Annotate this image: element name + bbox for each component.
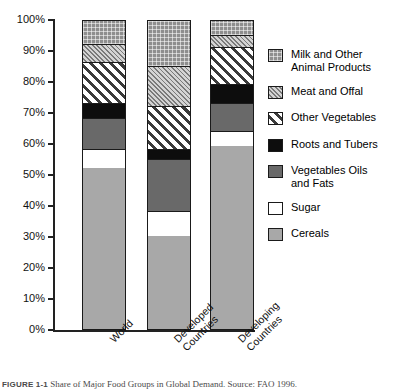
bar-segment [211,131,253,147]
legend-label: Milk and Other Animal Products [291,48,371,73]
figure-number: FIGURE 1-1 [2,380,48,389]
y-tick-label: 70% [23,107,45,118]
legend-label: Other Vegetables [291,111,376,124]
legend-item: Sugar [268,201,402,216]
bar-segment [148,66,190,106]
y-tick-label: 100% [17,14,45,25]
legend-swatch [268,228,283,241]
bar-segment [148,149,190,158]
legend-swatch [268,165,283,178]
y-tick-label: 90% [23,45,45,56]
bar-segment [83,168,125,329]
y-tick-label: 20% [23,262,45,273]
legend-item: Meat and Offal [268,85,402,100]
legend-item: Other Vegetables [268,111,402,126]
bar-segment [211,103,253,131]
bar-segment [83,149,125,168]
bar-segment [148,106,190,149]
x-axis-line [53,330,255,332]
bar-segment [211,84,253,103]
legend-swatch [268,112,283,125]
legend-label: Cereals [291,227,329,240]
chart-legend: Milk and Other Animal ProductsMeat and O… [268,48,402,254]
bar-segment [83,103,125,119]
bar-segment [148,211,190,236]
bar-segment [83,20,125,44]
caption-text: Share of Major Food Groups in Global Dem… [50,379,297,389]
y-tick-label: 40% [23,200,45,211]
legend-swatch [268,86,283,99]
legend-swatch [268,49,283,62]
bar-segment [83,118,125,149]
stacked-bar [147,20,191,330]
y-tick-label: 10% [23,293,45,304]
y-tick-label: 80% [23,76,45,87]
bar-segment [148,236,190,329]
bar-segment [83,62,125,102]
y-tick-label: 0% [29,324,45,335]
y-tick-label: 60% [23,138,45,149]
figure-caption: FIGURE 1-1 Share of Major Food Groups in… [2,379,402,390]
legend-item: Milk and Other Animal Products [268,48,402,73]
bar-segment [211,47,253,84]
legend-item: Cereals [268,227,402,242]
legend-label: Roots and Tubers [291,138,378,151]
bar-segment [211,35,253,47]
bar-segment [211,20,253,35]
legend-label: Meat and Offal [291,85,363,98]
legend-swatch [268,139,283,152]
stacked-bar [82,20,126,330]
bar-segment [148,159,190,212]
legend-label: Sugar [291,201,320,214]
bar-segment [211,146,253,329]
legend-label: Vegetables Oils and Fats [291,164,367,189]
legend-item: Roots and Tubers [268,138,402,153]
plot-area [54,20,254,330]
stacked-bar [210,20,254,330]
chart-figure: 100%90%80%70%60%50%40%30%20%10%0% WorldD… [0,0,402,391]
bar-segment [148,20,190,66]
y-tick-label: 50% [23,169,45,180]
legend-swatch [268,202,283,215]
bar-segment [83,44,125,63]
y-tick-label: 30% [23,231,45,242]
legend-item: Vegetables Oils and Fats [268,164,402,189]
